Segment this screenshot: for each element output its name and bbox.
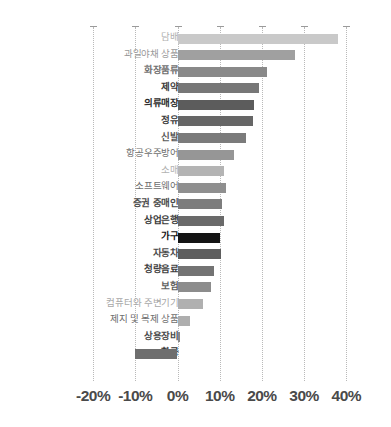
bar-row: 보험 bbox=[0, 281, 391, 298]
bar-rows: 담배과일야채 상품화장품류제약의류매장정유신발항공우주방어소매소프트웨어증권 중… bbox=[0, 32, 391, 364]
category-label: 소프트웨어 bbox=[135, 180, 179, 192]
plot-area: 담배과일야채 상품화장품류제약의류매장정유신발항공우주방어소매소프트웨어증권 중… bbox=[0, 0, 391, 383]
bar bbox=[178, 50, 295, 60]
bar bbox=[178, 199, 223, 209]
category-label: 증권 중매인 bbox=[133, 197, 179, 209]
bar bbox=[178, 116, 253, 126]
category-label: 제지 및 목제 상품 bbox=[110, 313, 179, 325]
category-label: 담배 bbox=[161, 31, 179, 43]
tick-mark bbox=[259, 26, 266, 27]
bar-row: 상용장비 bbox=[0, 331, 391, 348]
bar-row: 소프트웨어 bbox=[0, 181, 391, 198]
bar bbox=[178, 183, 227, 193]
tick-mark bbox=[132, 26, 139, 27]
bar-row: 상업은행 bbox=[0, 215, 391, 232]
bar-row: 과일야채 상품 bbox=[0, 49, 391, 66]
bar bbox=[178, 282, 212, 292]
category-label: 과일야채 상품 bbox=[124, 48, 179, 60]
bar bbox=[178, 332, 181, 342]
category-label: 화장품류 bbox=[144, 64, 179, 76]
category-label: 정유 bbox=[161, 114, 179, 126]
bar-row: 항공 bbox=[0, 347, 391, 364]
category-label: 자동차 bbox=[153, 247, 179, 259]
bar-row: 자동차 bbox=[0, 248, 391, 265]
bar bbox=[178, 299, 203, 309]
category-label: 소매 bbox=[161, 164, 179, 176]
bar-row: 제약 bbox=[0, 82, 391, 99]
bar bbox=[178, 166, 224, 176]
bar bbox=[178, 316, 191, 326]
bar bbox=[178, 133, 246, 143]
category-label: 가구 bbox=[161, 230, 179, 242]
x-axis-tick-label: 0% bbox=[167, 387, 188, 405]
bar bbox=[178, 233, 220, 243]
bar-row: 가구 bbox=[0, 231, 391, 248]
bar-row: 청량음료 bbox=[0, 264, 391, 281]
tick-mark bbox=[301, 26, 308, 27]
bar-row: 컴퓨터와 주변기기 bbox=[0, 298, 391, 315]
category-label: 상업은행 bbox=[144, 214, 179, 226]
bar bbox=[178, 100, 255, 110]
category-label: 청량음료 bbox=[144, 263, 179, 275]
category-label: 항공우주방어 bbox=[126, 147, 179, 159]
category-label: 의류매장 bbox=[144, 97, 179, 109]
bar-row: 정유 bbox=[0, 115, 391, 132]
x-axis-tick-label: -20% bbox=[76, 387, 110, 405]
bar-row: 의류매장 bbox=[0, 98, 391, 115]
bar-row: 신발 bbox=[0, 132, 391, 149]
x-axis-tick-label: 40% bbox=[332, 387, 362, 405]
bar-row: 항공우주방어 bbox=[0, 148, 391, 165]
bar bbox=[178, 150, 235, 160]
category-label: 신발 bbox=[161, 131, 179, 143]
bar-chart: 담배과일야채 상품화장품류제약의류매장정유신발항공우주방어소매소프트웨어증권 중… bbox=[0, 0, 391, 427]
bar-row: 소매 bbox=[0, 165, 391, 182]
x-axis-tick-label: -10% bbox=[118, 387, 152, 405]
category-label: 제약 bbox=[161, 81, 179, 93]
bar bbox=[178, 34, 338, 44]
x-axis: -20%-10%0%10%20%30%40% bbox=[0, 383, 391, 427]
x-axis-tick-label: 20% bbox=[247, 387, 277, 405]
tick-mark bbox=[217, 26, 224, 27]
bar-row: 제지 및 목제 상품 bbox=[0, 314, 391, 331]
bar-row: 담배 bbox=[0, 32, 391, 49]
category-label: 상용장비 bbox=[144, 330, 179, 342]
bar bbox=[135, 349, 177, 359]
category-label: 컴퓨터와 주변기기 bbox=[106, 297, 179, 309]
bar bbox=[178, 266, 214, 276]
tick-mark bbox=[90, 26, 97, 27]
category-label: 보험 bbox=[161, 280, 179, 292]
x-axis-tick-label: 10% bbox=[205, 387, 235, 405]
bar bbox=[178, 216, 224, 226]
tick-mark bbox=[175, 26, 182, 27]
x-axis-tick-label: 30% bbox=[289, 387, 319, 405]
bar bbox=[178, 67, 267, 77]
bar bbox=[178, 249, 222, 259]
bar bbox=[178, 83, 259, 93]
bar-row: 증권 중매인 bbox=[0, 198, 391, 215]
bar-row: 화장품류 bbox=[0, 65, 391, 82]
tick-mark bbox=[343, 26, 350, 27]
